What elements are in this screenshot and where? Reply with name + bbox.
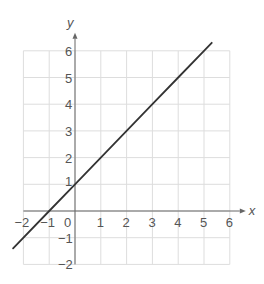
line-chart: x y −2−10123456−2−1123456 [0,0,264,284]
y-tick-label: 2 [65,151,72,166]
x-tick-label: 5 [200,215,207,230]
series-line [13,43,212,249]
x-tick-label: 6 [226,215,233,230]
y-tick-label: −1 [58,231,73,246]
y-tick-label: −2 [58,257,73,272]
y-tick-label: 5 [65,71,72,86]
x-tick-label: 1 [97,215,104,230]
y-tick-label: 6 [65,44,72,59]
y-axis-label: y [66,15,75,30]
x-tick-label: 3 [148,215,155,230]
x-tick-label: −2 [14,215,29,230]
x-tick-label: 0 [64,215,71,230]
x-tick-label: 4 [174,215,181,230]
x-axis-arrow-icon [240,209,246,214]
y-tick-label: 3 [65,124,72,139]
data-series [13,43,212,249]
y-tick-label: 4 [65,97,72,112]
x-tick-label: 2 [123,215,130,230]
grid-lines [23,51,229,265]
axes: x y [23,15,255,265]
x-axis-label: x [248,203,256,218]
y-axis-arrow-icon [73,33,78,39]
